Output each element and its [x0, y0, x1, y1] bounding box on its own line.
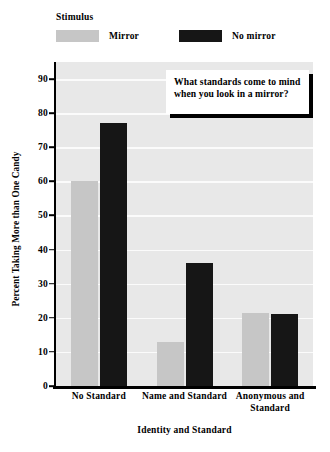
legend-entry-no-mirror: No mirror: [179, 29, 276, 43]
legend-swatch-mirror: [56, 30, 99, 42]
y-axis-tick-mark: [49, 215, 54, 217]
annotation-text: What standards come to mind when you loo…: [174, 76, 306, 100]
legend-label-mirror: Mirror: [109, 31, 139, 41]
x-axis-tick-label: Name and Standard: [142, 391, 228, 403]
bar-mirror-name-and-standard: [157, 342, 184, 386]
y-axis-tick-label: 0: [22, 381, 48, 391]
annotation-callout: What standards come to mind when you loo…: [166, 70, 309, 114]
y-axis-tick-mark: [49, 146, 54, 148]
y-axis-tick-mark: [49, 78, 54, 80]
y-axis-tick-mark: [49, 351, 54, 353]
legend-swatch-no-mirror: [179, 30, 222, 42]
y-axis-tick-mark: [49, 181, 54, 183]
y-axis-tick-label: 20: [22, 313, 48, 323]
y-axis-tick-label: 30: [22, 279, 48, 289]
legend-label-no-mirror: No mirror: [232, 31, 276, 41]
bar-no-mirror-anonymous-and-standard: [271, 314, 298, 386]
x-axis-tick-label: No Standard: [56, 391, 142, 403]
bar-no-mirror-name-and-standard: [186, 263, 213, 386]
y-axis-tick-mark: [49, 317, 54, 319]
y-axis-tick-label: 70: [22, 142, 48, 152]
y-axis-tick-label: 60: [22, 176, 48, 186]
legend: Stimulus Mirror No mirror: [56, 12, 318, 58]
y-axis-tick-label: 90: [22, 74, 48, 84]
bar-no-mirror-no-standard: [100, 123, 127, 386]
annotation-box: What standards come to mind when you loo…: [166, 70, 309, 114]
y-axis-tick-label: 80: [22, 108, 48, 118]
x-axis-tick-label: Anonymous and Standard: [227, 391, 313, 414]
y-axis-tick-labels: 0102030405060708090: [18, 0, 48, 452]
y-axis-title: Percent Taking More than One Candy: [11, 134, 21, 324]
gridline: [56, 147, 313, 149]
y-axis-tick-label: 10: [22, 347, 48, 357]
bar-mirror-no-standard: [71, 181, 98, 386]
bar-mirror-anonymous-and-standard: [242, 313, 269, 386]
y-axis-tick-label: 50: [22, 210, 48, 220]
y-axis-tick-mark: [49, 112, 54, 114]
x-axis-title: Identity and Standard: [56, 425, 313, 435]
y-axis-tick-mark: [49, 283, 54, 285]
legend-entry-mirror: Mirror: [56, 29, 139, 43]
legend-title: Stimulus: [56, 12, 94, 22]
y-axis-tick-label: 40: [22, 245, 48, 255]
y-axis-line: [54, 62, 56, 386]
y-axis-tick-mark: [49, 249, 54, 251]
x-axis-line: [53, 386, 316, 389]
y-axis-tick-mark: [49, 385, 54, 387]
